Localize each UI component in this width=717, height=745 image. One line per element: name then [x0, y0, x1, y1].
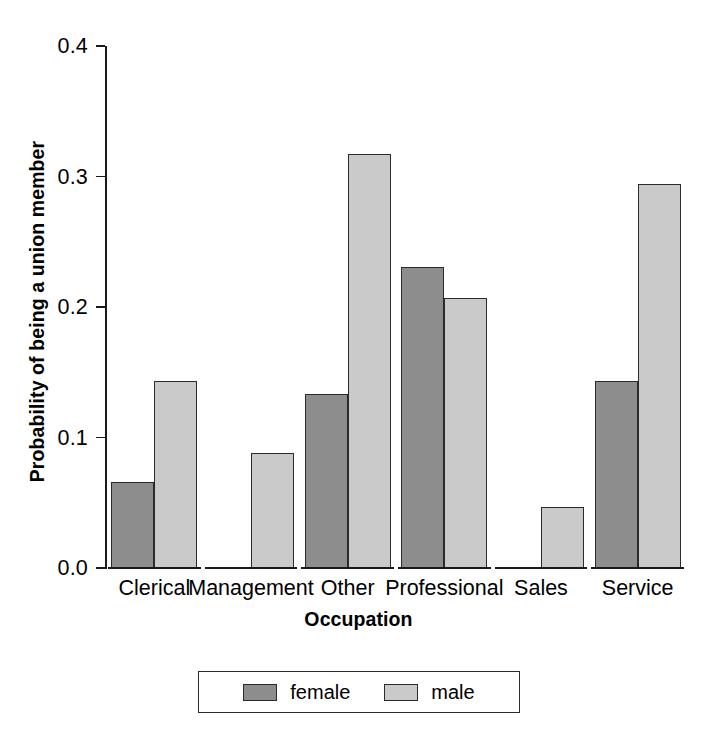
x-axis-segment [108, 567, 201, 569]
x-axis-segment [591, 567, 684, 569]
legend-entry-female: female [243, 681, 350, 704]
y-axis-tick-label: 0.3 [26, 164, 88, 189]
y-axis-tick [96, 567, 105, 569]
legend-swatch-female-icon [243, 684, 277, 701]
plot-area [106, 46, 686, 568]
bar-other-female [305, 394, 348, 568]
y-axis-tick [96, 437, 105, 439]
bar-clerical-female [111, 482, 154, 568]
scan-artifact-strip [0, 0, 717, 7]
bar-service-female [595, 381, 638, 568]
chart-legend: female male [198, 671, 520, 713]
legend-label-male: male [431, 681, 474, 704]
x-axis-segment [301, 567, 394, 569]
y-axis-tick-label: 0.4 [26, 34, 88, 59]
y-axis-tick-label: 0.1 [26, 425, 88, 450]
bar-professional-male [444, 298, 487, 568]
x-axis-segment [495, 567, 588, 569]
x-axis-segment [398, 567, 491, 569]
y-axis-tick [96, 306, 105, 308]
bar-management-male [251, 453, 294, 568]
bar-clerical-male [154, 381, 197, 568]
y-axis-tick [96, 176, 105, 178]
x-axis-segment [205, 567, 298, 569]
x-axis-category-label-service: Service [531, 576, 717, 601]
x-axis-title: Occupation [0, 608, 717, 631]
bar-other-male [348, 154, 391, 568]
legend-swatch-male-icon [384, 684, 418, 701]
legend-label-female: female [290, 681, 350, 704]
y-axis-tick [96, 45, 105, 47]
y-axis-tick-label: 0.2 [26, 295, 88, 320]
legend-entry-male: male [384, 681, 474, 704]
bar-professional-female [401, 267, 444, 568]
bar-chart: Probability of being a union member 0.00… [0, 0, 717, 745]
bar-service-male [638, 184, 681, 568]
bar-sales-male [541, 507, 584, 568]
